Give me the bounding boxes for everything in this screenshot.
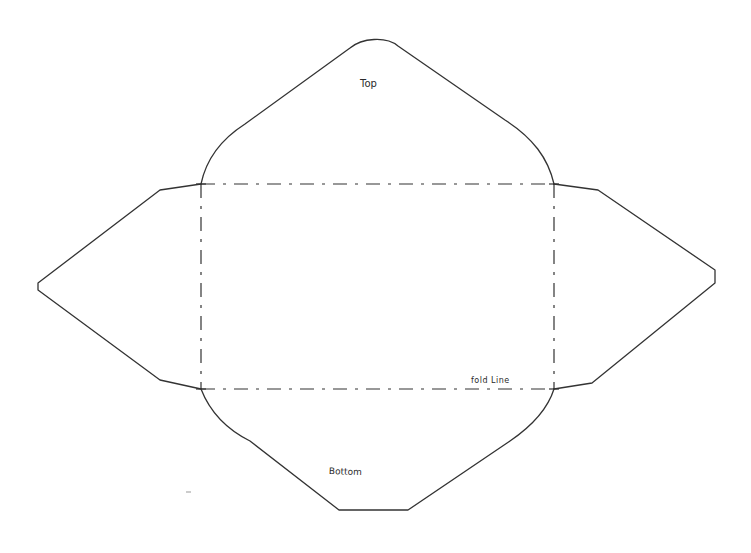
top-flap-label: Top [360,78,377,89]
right-flap-outline [554,184,715,389]
top-flap-outline [201,39,554,184]
fold-line-label: fold Line [471,376,510,385]
left-flap-outline [38,184,201,389]
bottom-flap-label: Bottom [329,466,362,477]
bottom-flap-outline [201,389,554,510]
